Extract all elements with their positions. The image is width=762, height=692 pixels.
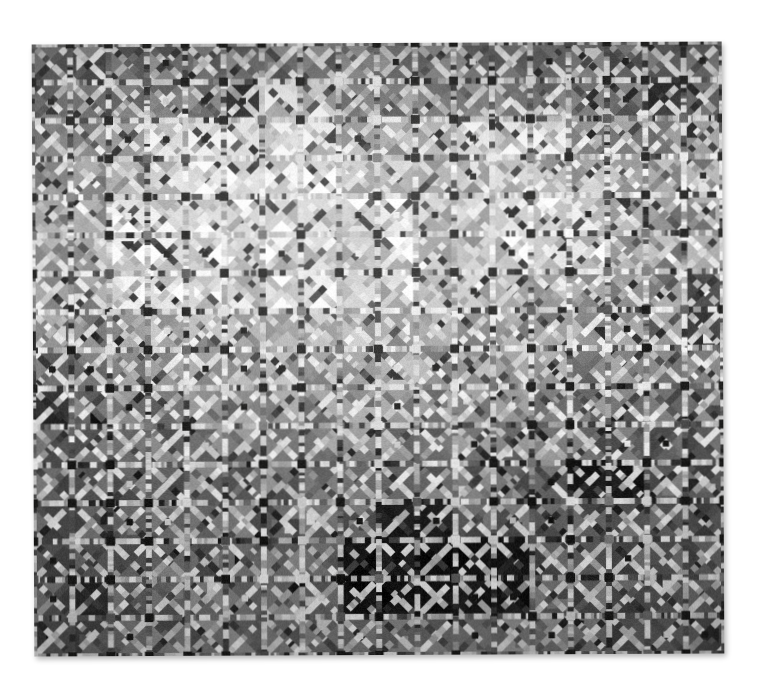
quilt-surface <box>32 41 725 656</box>
photo-canvas: String-pieced patchwork quilt <box>0 0 762 692</box>
quilt-photograph <box>32 41 725 656</box>
